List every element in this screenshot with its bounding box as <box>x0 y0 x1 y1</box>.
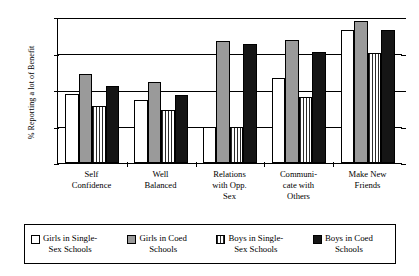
bar-group <box>333 18 402 163</box>
legend-label: Girls in Single- Sex Schools <box>43 233 97 255</box>
legend-label: Girls in Coed Schools <box>139 233 186 255</box>
bar <box>106 86 120 163</box>
bar <box>272 78 286 163</box>
bar <box>203 127 217 163</box>
legend-item-girls-coed: Girls in Coed Schools <box>127 233 216 255</box>
bar-groups <box>58 18 402 163</box>
x-axis-label: Communi-cate withOthers <box>264 169 333 203</box>
legend-swatch-icon <box>216 235 225 244</box>
x-axis-label: Make NewFriends <box>333 169 402 203</box>
bar-group <box>58 18 127 163</box>
legend-swatch-icon <box>313 235 322 244</box>
x-axis-labels: SelfConfidenceWellBalancedRelationswith … <box>57 169 402 203</box>
legend-swatch-icon <box>31 235 40 244</box>
x-axis-tick-mark <box>333 162 334 167</box>
x-axis-label: Relationswith Opp.Sex <box>195 169 264 203</box>
x-axis-tick-mark <box>196 162 197 167</box>
bar <box>216 41 230 163</box>
bar <box>285 40 299 163</box>
bar <box>134 100 148 163</box>
bar-group <box>127 18 196 163</box>
bar <box>175 95 189 163</box>
y-axis-title: % Reporting a lot of Benefit <box>27 13 36 173</box>
legend-item-boys-single-sex: Boys in Single- Sex Schools <box>216 233 312 255</box>
bar <box>368 53 382 163</box>
bar <box>354 21 368 163</box>
legend-swatch-icon <box>127 235 136 244</box>
x-axis-tick-mark <box>264 162 265 167</box>
bar <box>79 74 93 163</box>
bar <box>381 30 395 163</box>
y-axis-tick-mark <box>54 164 59 165</box>
bar <box>148 82 162 163</box>
bar <box>92 106 106 163</box>
bar <box>299 97 313 163</box>
bar <box>312 52 326 163</box>
bar <box>230 127 244 163</box>
chart-legend: Girls in Single- Sex Schools Girls in Co… <box>24 224 396 264</box>
y-axis-tick-mark <box>401 164 406 165</box>
bar <box>341 30 355 163</box>
bar <box>65 94 79 163</box>
legend-item-boys-coed: Boys in Coed Schools <box>313 233 389 255</box>
legend-label: Boys in Coed Schools <box>325 233 373 255</box>
bar-group <box>196 18 265 163</box>
x-axis-tick-mark <box>127 162 128 167</box>
x-axis-label: SelfConfidence <box>57 169 126 203</box>
legend-item-girls-single-sex: Girls in Single- Sex Schools <box>31 233 127 255</box>
bar-chart: % Reporting a lot of Benefit 020406080 S… <box>0 0 419 276</box>
legend-label: Boys in Single- Sex Schools <box>228 233 283 255</box>
bar <box>161 110 175 163</box>
bar <box>243 44 257 163</box>
bar-group <box>264 18 333 163</box>
plot-area: 020406080 <box>57 18 402 164</box>
x-axis-label: WellBalanced <box>126 169 195 203</box>
